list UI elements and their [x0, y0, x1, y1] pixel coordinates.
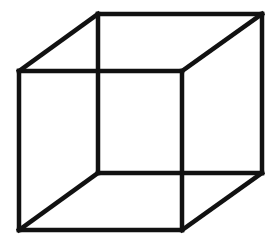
necker-cube-diagram — [0, 0, 278, 247]
cube-edge-front-top-left-to-back-top-left — [19, 14, 98, 71]
cube-edge-front-top-right-to-back-top-right — [182, 14, 262, 71]
cube-edge-front-bottom-left-to-back-bottom-left — [19, 173, 98, 230]
cube-edge-front-bottom-right-to-back-bottom-right — [182, 173, 262, 230]
cube-edges — [19, 14, 262, 230]
cube-wireframe — [0, 0, 278, 247]
